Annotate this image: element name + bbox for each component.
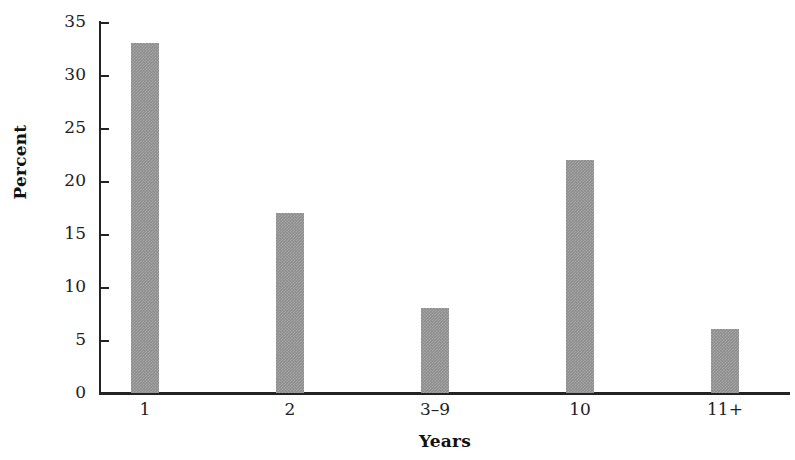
y-axis-tick-mark xyxy=(100,181,109,183)
x-axis-title: Years xyxy=(100,431,790,451)
y-axis-tick-label: 0 xyxy=(42,384,86,401)
x-axis-category-label: 1 xyxy=(85,399,205,419)
bar-chart: Percent 05101520253035 123–91011+ Years xyxy=(0,0,795,460)
y-axis-tick-mark xyxy=(100,234,109,236)
y-axis-tick-mark xyxy=(100,287,109,289)
x-axis-category-label: 3–9 xyxy=(375,399,495,419)
plot-area: 05101520253035 xyxy=(100,22,790,393)
bar xyxy=(421,308,449,393)
bar xyxy=(566,160,594,393)
y-axis-title: Percent xyxy=(10,112,30,212)
bar xyxy=(131,43,159,393)
y-axis-tick-mark xyxy=(100,75,109,77)
x-axis-category-label: 2 xyxy=(230,399,350,419)
bar xyxy=(711,329,739,393)
y-axis-tick-label: 30 xyxy=(42,66,86,83)
y-axis-tick-label: 10 xyxy=(42,278,86,295)
y-axis-tick-mark xyxy=(100,340,109,342)
y-axis-tick-label: 25 xyxy=(42,119,86,136)
bar xyxy=(276,213,304,393)
x-axis-category-label: 11+ xyxy=(665,399,785,419)
y-axis-tick-label: 5 xyxy=(42,331,86,348)
y-axis-tick-label: 20 xyxy=(42,172,86,189)
y-axis-tick-mark xyxy=(100,22,109,24)
y-axis-tick-label: 15 xyxy=(42,225,86,242)
y-axis-tick-label: 35 xyxy=(42,13,86,30)
x-axis-category-label: 10 xyxy=(520,399,640,419)
y-axis-tick-mark xyxy=(100,128,109,130)
